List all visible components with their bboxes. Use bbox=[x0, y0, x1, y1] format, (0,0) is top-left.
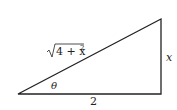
angle-label: θ bbox=[51, 80, 57, 91]
hypotenuse-exponent: 2 bbox=[80, 44, 84, 52]
adjacent-side-label: 2 bbox=[90, 95, 97, 108]
hypotenuse-label: 4 + x 2 bbox=[47, 44, 86, 58]
right-triangle-diagram: 4 + x 2 θ 2 x bbox=[0, 0, 177, 110]
opposite-side-label: x bbox=[166, 51, 173, 64]
triangle-shape bbox=[18, 19, 161, 94]
